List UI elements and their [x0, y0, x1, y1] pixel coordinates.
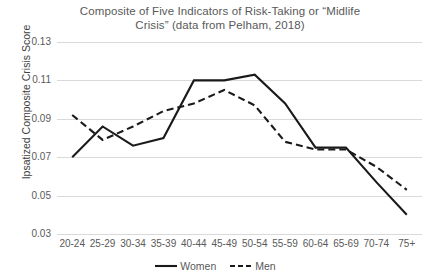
gridline: [57, 234, 422, 235]
legend-label: Men: [255, 260, 275, 272]
x-tick-label: 60-64: [300, 238, 330, 249]
y-axis-title: Ipsatized Composite Crisis Score: [20, 7, 32, 197]
x-tick-label: 40-44: [179, 238, 209, 249]
chart-title-line-2: Crisis” (data from Pelham, 2018): [135, 19, 304, 31]
chart-title: Composite of Five Indicators of Risk-Tak…: [60, 4, 380, 32]
x-tick-label: 50-54: [240, 238, 270, 249]
y-tick-label: 0.05: [17, 191, 51, 201]
y-tick-label: 0.03: [17, 229, 51, 239]
x-tick-label: 30-34: [118, 238, 148, 249]
y-tick-label: 0.11: [17, 75, 51, 85]
x-tick-label: 65-69: [331, 238, 361, 249]
plot-area: [57, 42, 422, 234]
x-tick-label: 45-49: [209, 238, 239, 249]
x-tick-label: 20-24: [57, 238, 87, 249]
x-tick-label: 25-29: [87, 238, 117, 249]
y-tick-label: 0.13: [17, 37, 51, 47]
series-line-women: [72, 75, 407, 215]
y-tick-label: 0.07: [17, 152, 51, 162]
legend-swatch-men: [230, 261, 252, 271]
chart-title-line-1: Composite of Five Indicators of Risk-Tak…: [80, 5, 360, 17]
chart-container: Composite of Five Indicators of Risk-Tak…: [0, 0, 431, 280]
chart-legend: WomenMen: [0, 260, 431, 272]
legend-label: Women: [180, 260, 216, 272]
legend-item-women[interactable]: Women: [155, 260, 216, 272]
x-tick-label: 75+: [392, 238, 422, 249]
y-tick-label: 0.09: [17, 114, 51, 124]
x-tick-label: 55-59: [270, 238, 300, 249]
legend-swatch-women: [155, 261, 177, 271]
legend-item-men[interactable]: Men: [230, 260, 275, 272]
x-tick-label: 70-74: [361, 238, 391, 249]
series-lines: [57, 42, 422, 234]
x-tick-label: 35-39: [148, 238, 178, 249]
